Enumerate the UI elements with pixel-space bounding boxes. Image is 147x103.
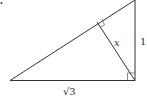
altitude-label: x bbox=[114, 37, 120, 48]
altitude-line bbox=[97, 22, 135, 81]
horizontal-leg-label: √3 bbox=[63, 86, 76, 97]
vertical-leg-label: 1 bbox=[140, 36, 146, 47]
bullet-dot bbox=[1, 2, 3, 4]
triangle-diagram: x 1 √3 bbox=[0, 0, 147, 103]
